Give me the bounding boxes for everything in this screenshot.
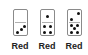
domino-2 xyxy=(40,9,55,36)
pip xyxy=(20,28,23,31)
pip xyxy=(70,18,73,21)
pip xyxy=(49,25,52,28)
domino-divider xyxy=(42,22,53,23)
domino-divider xyxy=(69,22,80,23)
pip xyxy=(76,24,79,27)
domino-1 xyxy=(13,9,28,36)
pip xyxy=(49,31,52,34)
pip xyxy=(23,25,26,28)
pip xyxy=(46,15,49,18)
domino-label-1: Red xyxy=(8,41,32,51)
domino-label-2: Red xyxy=(35,41,59,51)
pip xyxy=(43,25,46,28)
pip xyxy=(77,12,80,15)
pip xyxy=(73,27,76,30)
pip xyxy=(70,31,73,34)
pip xyxy=(43,31,46,34)
pip xyxy=(16,31,19,34)
domino-label-3: Red xyxy=(62,41,86,51)
pip xyxy=(76,31,79,34)
domino-divider xyxy=(15,22,26,23)
domino-3 xyxy=(67,9,82,36)
